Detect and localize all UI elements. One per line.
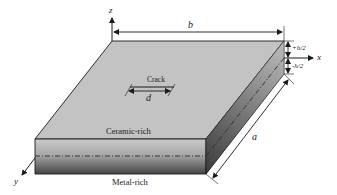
z-axis-label: z bbox=[109, 6, 113, 15]
crack-length-label: d bbox=[146, 93, 151, 103]
dimension-a-label: a bbox=[252, 132, 257, 142]
lower-half-thickness-label: -h/2 bbox=[292, 63, 303, 70]
y-axis bbox=[22, 158, 35, 175]
dimension-b-label: b bbox=[188, 20, 193, 30]
metal-rich-label: Metal-rich bbox=[112, 178, 148, 187]
upper-half-thickness-label: +h/2 bbox=[292, 45, 306, 52]
crack-label: Crack bbox=[147, 76, 165, 84]
front-face bbox=[35, 139, 206, 174]
ceramic-rich-label: Ceramic-rich bbox=[106, 127, 151, 136]
y-axis-label: y bbox=[14, 177, 18, 186]
plate-drawing bbox=[0, 0, 337, 195]
x-axis-label: x bbox=[317, 53, 321, 62]
fgm-plate-diagram: z x y b a +h/2 -h/2 d Crack Ceramic-rich… bbox=[0, 0, 337, 195]
